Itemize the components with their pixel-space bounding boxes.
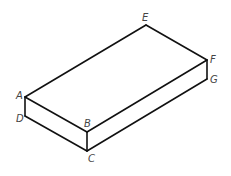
prism-diagram: A D B C E F G: [0, 0, 231, 176]
vertex-label-b: B: [84, 118, 91, 129]
vertex-label-f: F: [210, 54, 216, 65]
vertex-label-a: A: [15, 90, 23, 101]
vertex-label-g: G: [210, 74, 218, 85]
edge-BF: [87, 60, 207, 132]
edge-EF: [146, 25, 207, 60]
vertex-label-d: D: [16, 113, 24, 124]
edge-DC: [25, 116, 87, 151]
edge-AB: [25, 97, 87, 132]
edge-AE: [25, 25, 146, 97]
vertex-label-c: C: [88, 153, 95, 164]
vertex-label-e: E: [142, 12, 149, 23]
edge-CG: [87, 79, 207, 151]
